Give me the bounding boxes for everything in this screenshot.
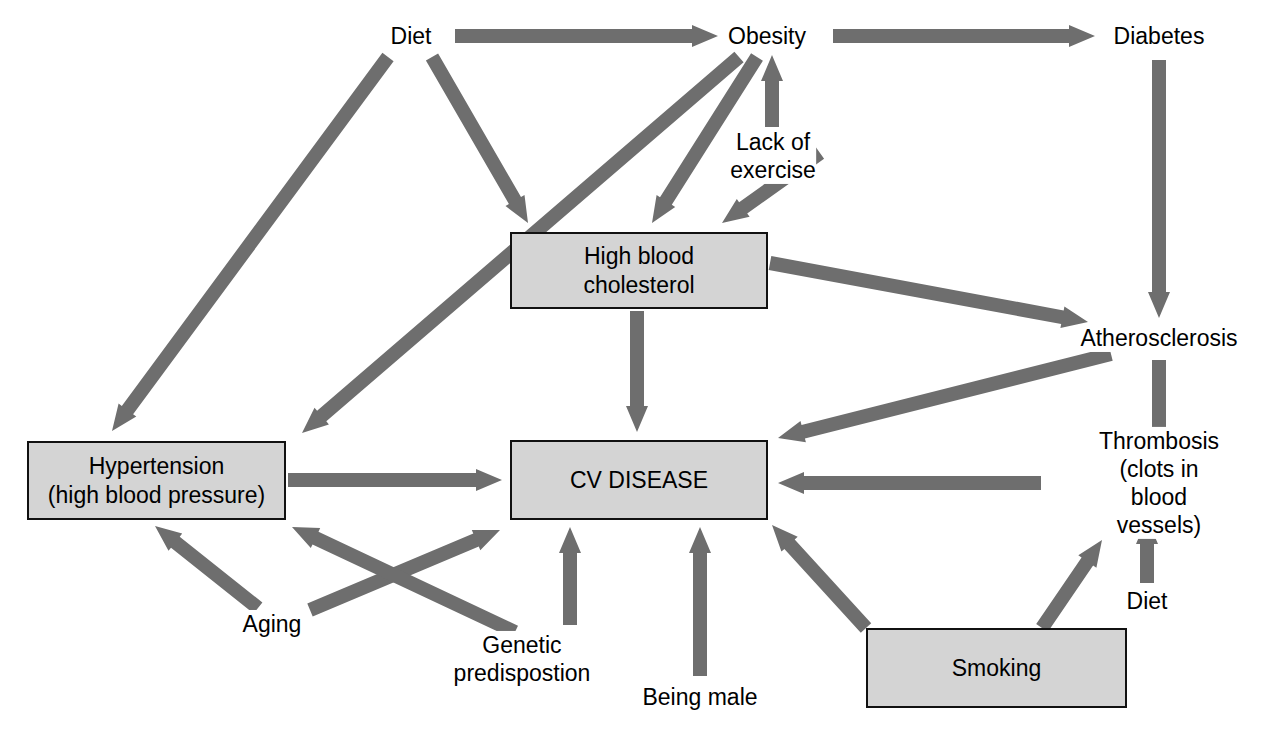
edge-diabetes-to-atherosclerosis	[1148, 60, 1170, 318]
node-label: Smoking	[952, 654, 1041, 682]
edge-diet_top-to-hypertension	[112, 53, 394, 431]
edge-obesity-to-diabetes	[833, 25, 1095, 47]
node-label: Diet	[1127, 588, 1168, 614]
edge-thrombosis-to-cv_disease	[778, 472, 1041, 494]
node-high-blood-cholesterol: High bloodcholesterol	[510, 232, 768, 309]
edge-hypertension-to-cv_disease	[288, 469, 502, 491]
edge-smoking-to-thrombosis	[1036, 540, 1102, 632]
node-smoking: Smoking	[866, 628, 1127, 708]
node-label: Diet	[391, 23, 432, 49]
node-label: Lack ofexercise	[730, 129, 816, 183]
node-cv-disease: CV DISEASE	[510, 440, 768, 520]
node-diet-bottom: Diet	[1127, 587, 1168, 615]
node-lack-of-exercise: Lack ofexercise	[730, 128, 816, 184]
node-being-male: Being male	[642, 683, 757, 711]
node-aging: Aging	[243, 610, 302, 638]
edge-cholesterol-to-atherosclerosis	[769, 256, 1088, 328]
edge-cholesterol-to-cv_disease	[626, 311, 648, 432]
node-genetic-predispostion: Geneticpredispostion	[454, 631, 591, 687]
edge-being_male-to-cv_disease	[689, 527, 711, 676]
node-label: Thrombosis(clots in blood vessels)	[1099, 428, 1219, 538]
node-atherosclerosis: Atherosclerosis	[1080, 324, 1237, 352]
edge-genetic-to-cv_disease	[559, 527, 581, 625]
node-diabetes: Diabetes	[1114, 22, 1205, 50]
edge-smoking-to-cv_disease	[772, 525, 871, 633]
edge-diet_top-to-cholesterol	[426, 54, 528, 224]
node-label: Hypertension(high blood pressure)	[48, 452, 265, 508]
node-label: Atherosclerosis	[1080, 325, 1237, 351]
edge-aging-to-hypertension	[155, 526, 262, 614]
node-label: Diabetes	[1114, 23, 1205, 49]
node-label: High bloodcholesterol	[583, 242, 694, 298]
edge-diet_top-to-obesity	[455, 25, 718, 47]
causal-diagram: Diet Obesity Diabetes Lack ofexercise At…	[0, 0, 1286, 734]
node-label: Aging	[243, 611, 302, 637]
edge-lack_exercise-to-obesity	[761, 55, 783, 127]
node-label: Geneticpredispostion	[454, 632, 591, 686]
node-thrombosis: Thrombosis(clots in blood vessels)	[1096, 427, 1223, 539]
node-diet-top: Diet	[391, 22, 432, 50]
node-obesity: Obesity	[728, 22, 806, 50]
node-label: Being male	[642, 684, 757, 710]
node-hypertension: Hypertension(high blood pressure)	[27, 441, 286, 520]
node-label: CV DISEASE	[570, 466, 708, 494]
edge-atherosclerosis-to-cv_disease	[778, 347, 1113, 442]
edges-layer	[0, 0, 1286, 734]
node-label: Obesity	[728, 23, 806, 49]
